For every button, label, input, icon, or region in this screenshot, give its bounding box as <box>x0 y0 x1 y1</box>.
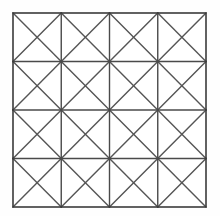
figure-root <box>0 0 220 216</box>
grid-diagram <box>0 0 220 216</box>
